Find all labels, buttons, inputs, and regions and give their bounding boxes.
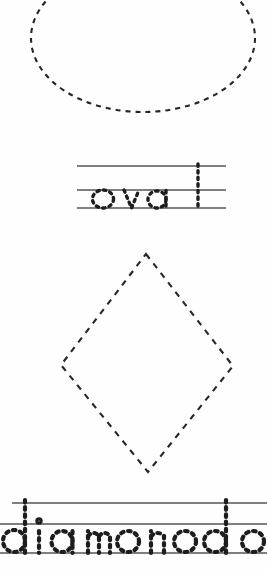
worksheet-page — [0, 0, 267, 573]
diamond-trace-layer — [0, 0, 267, 573]
diamond-traced-word — [3, 500, 264, 553]
